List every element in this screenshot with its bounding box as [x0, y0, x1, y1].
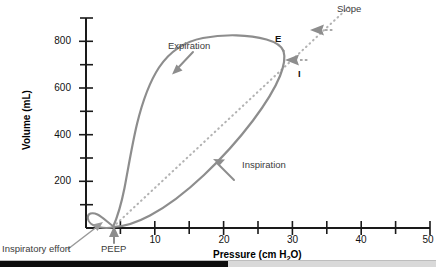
y-tick-label-200: 200: [43, 175, 71, 186]
expiration-arrow: [172, 52, 193, 75]
annotation-peep: PEEP: [101, 243, 126, 254]
x-tick-label-50: 50: [414, 234, 436, 245]
annotation-expiration: Expiration: [168, 40, 210, 51]
x-tick-label-30: 30: [279, 234, 307, 245]
inspiration-limb-path: [113, 51, 284, 227]
slope-dotted-line: [113, 5, 351, 227]
x-axis-title-pre: Pressure (cm H: [213, 249, 286, 260]
y-tick-label-800: 800: [43, 35, 71, 46]
expiration-limb-path: [113, 35, 284, 227]
x-axis-title-post: O): [291, 249, 302, 260]
annotation-inspiratory-effort: Inspiratory effort: [2, 243, 70, 254]
annotation-inspiration: Inspiration: [242, 159, 286, 170]
slope-arrow: [310, 25, 333, 36]
x-tick-label-10: 10: [141, 234, 169, 245]
annotation-point-i: I: [298, 68, 301, 79]
x-tick-label-20: 20: [210, 234, 238, 245]
progress-bar-fill: [0, 261, 228, 267]
inspiration-arrow: [213, 159, 234, 180]
y-tick-label-400: 400: [43, 129, 71, 140]
progress-bar-track[interactable]: [0, 261, 436, 267]
y-tick-label-600: 600: [43, 82, 71, 93]
annotation-slope: Slope: [337, 3, 361, 14]
y-axis-title: Volume (mL): [21, 90, 32, 150]
x-tick-label-40: 40: [347, 234, 375, 245]
pv-loop-figure: 800 600 400 200 10 20 30 40 50 Volume (m…: [0, 0, 436, 268]
annotation-point-e: E: [275, 33, 281, 44]
